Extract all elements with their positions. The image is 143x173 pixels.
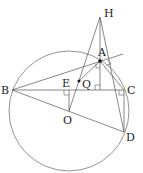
label-E: E xyxy=(62,77,70,90)
segment-HO xyxy=(69,17,100,111)
segment-AC xyxy=(100,61,124,90)
label-H: H xyxy=(104,7,114,20)
right-angle-E xyxy=(64,90,69,95)
label-Q: Q xyxy=(82,78,91,91)
label-D: D xyxy=(126,131,135,144)
geometry-diagram: H A B C D E O Q xyxy=(0,0,143,173)
right-angle-C xyxy=(119,90,124,95)
label-B: B xyxy=(1,84,9,97)
label-A: A xyxy=(97,46,107,59)
right-angle-foot xyxy=(95,85,100,90)
label-O: O xyxy=(63,114,72,127)
point-Q xyxy=(78,80,81,83)
point-A xyxy=(98,59,102,63)
label-C: C xyxy=(127,84,135,97)
segment-HD xyxy=(100,17,124,132)
